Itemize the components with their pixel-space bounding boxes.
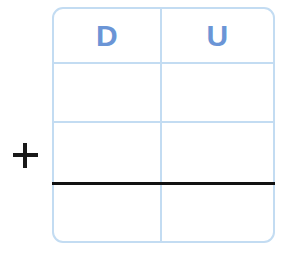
- column-divider: [160, 9, 162, 241]
- place-value-table: D U: [52, 7, 275, 243]
- row-divider-header: [54, 62, 273, 64]
- row-divider-addend: [54, 121, 273, 123]
- answer-rule: [52, 182, 275, 185]
- plus-vertical-stroke: [23, 143, 27, 168]
- column-header-units: U: [162, 9, 273, 62]
- plus-sign-icon: [8, 136, 44, 174]
- addition-worksheet: D U: [0, 0, 306, 253]
- column-header-tens: D: [54, 9, 160, 62]
